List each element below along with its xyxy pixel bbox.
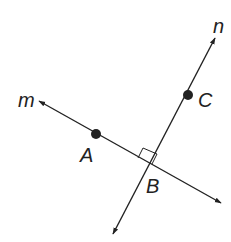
point-a-dot bbox=[91, 129, 101, 139]
label-a: A bbox=[79, 144, 93, 166]
label-c: C bbox=[198, 89, 213, 111]
label-n: n bbox=[213, 15, 224, 37]
point-c-dot bbox=[183, 90, 193, 100]
label-m: m bbox=[18, 89, 35, 111]
label-b: B bbox=[146, 175, 159, 197]
line-n bbox=[113, 38, 215, 234]
line-m bbox=[39, 101, 221, 203]
perpendicular-lines-diagram: m n A B C bbox=[0, 0, 231, 242]
